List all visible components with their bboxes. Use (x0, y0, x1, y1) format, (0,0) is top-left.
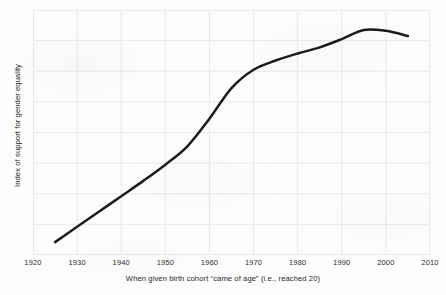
y-axis-title: Index of support for gender equality (13, 41, 22, 211)
x-axis-tick-label: 2000 (377, 258, 394, 267)
x-axis-title: When given birth cohort “came of age” (i… (0, 274, 446, 283)
x-axis-tick-label: 1940 (113, 258, 130, 267)
x-axis-tick-label: 1970 (245, 258, 262, 267)
chart-figure: 1920193019401950196019701980199020002010… (0, 0, 446, 295)
data-series-line (55, 29, 408, 242)
x-axis-tick-label: 1920 (24, 258, 41, 267)
x-axis-tick-label: 1990 (333, 258, 350, 267)
line-chart-svg (33, 10, 430, 255)
x-axis-tick-label: 1950 (157, 258, 174, 267)
plot-area (33, 10, 430, 255)
x-axis-tick-label: 1930 (68, 258, 85, 267)
horizontal-gridlines (33, 10, 430, 255)
x-axis-tick-label: 1960 (201, 258, 218, 267)
x-axis-tick-label: 2010 (421, 258, 438, 267)
x-axis-tick-label: 1980 (289, 258, 306, 267)
